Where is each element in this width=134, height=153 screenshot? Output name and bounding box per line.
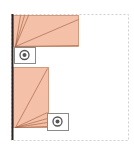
device-lower[interactable]: [48, 114, 69, 131]
sensor-icon-inner: [56, 120, 60, 124]
coverage-upper: [14, 16, 79, 47]
coverage-lower: [14, 68, 49, 128]
floor-plan-canvas: [0, 0, 134, 153]
sensor-icon-inner: [23, 53, 27, 57]
device-upper[interactable]: [15, 48, 36, 64]
floor-plan-drawing: [0, 0, 134, 153]
